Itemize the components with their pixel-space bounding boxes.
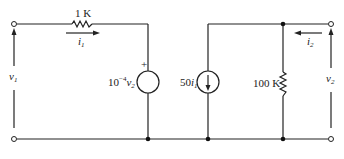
junction-dot: [281, 22, 286, 27]
terminal-top-left: [12, 22, 17, 27]
terminal-top-right: [329, 22, 334, 27]
dependent-voltage-source: [137, 71, 159, 93]
v1-label: v1: [9, 70, 17, 84]
junction-dot: [281, 137, 286, 142]
current-source-label: 50i1: [180, 76, 198, 90]
junction-dot: [206, 137, 211, 142]
resistor-100k-label: 100 K: [253, 77, 280, 89]
v2-label: v2: [326, 72, 335, 86]
junction-dot: [146, 137, 151, 142]
resistor-100k: [280, 72, 286, 96]
voltage-source-label: 10−4v2: [108, 75, 135, 90]
voltage-source-polarity: +: [141, 58, 147, 70]
circuit-diagram: 1 K i1 v1 + 10−4v2 50i1 100 K: [0, 0, 344, 159]
terminal-bottom-right: [329, 137, 334, 142]
i2-label: i2: [307, 35, 314, 49]
i1-label: i1: [78, 35, 85, 49]
i1-arrow: [66, 31, 100, 36]
terminal-bottom-left: [12, 137, 17, 142]
resistor-1k: [72, 21, 92, 27]
resistor-1k-label: 1 K: [75, 7, 91, 19]
